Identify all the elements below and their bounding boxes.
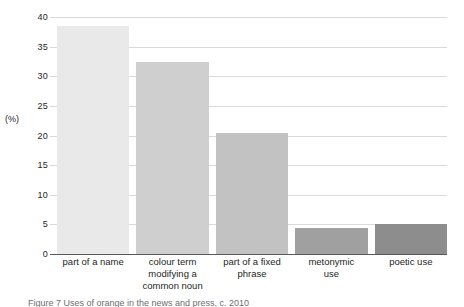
y-axis-tick-mark (50, 76, 57, 77)
y-axis-tick-label: 25 (38, 101, 57, 111)
y-axis-tick-mark (50, 224, 57, 225)
figure-caption: Figure 7 Uses of orange in the news and … (28, 299, 448, 307)
x-axis-category-label-line: part of a name (57, 256, 129, 268)
bar (136, 62, 208, 254)
x-axis-category-label-line: colour term (136, 256, 208, 268)
y-axis-tick-label: 15 (38, 160, 57, 170)
x-axis-category-label-line: common noun (136, 280, 208, 292)
y-axis-unit-label: (%) (5, 114, 19, 124)
bar-slot (57, 17, 129, 254)
y-axis-tick-mark (50, 195, 57, 196)
bar (57, 26, 129, 254)
x-axis-category-label-line: modifying a (136, 268, 208, 280)
bar-chart-figure: (%) 0510152025303540 part of a namecolou… (0, 0, 464, 307)
x-axis-category-label-line: phrase (216, 268, 288, 280)
y-axis-tick-mark (50, 254, 57, 255)
x-axis-category-label: metonymicuse (295, 256, 367, 280)
x-axis-category-label-line: use (295, 268, 367, 280)
y-axis-tick-label: 35 (38, 42, 57, 52)
plot-area: 0510152025303540 (57, 17, 447, 254)
y-axis-tick-mark (50, 136, 57, 137)
bar (216, 133, 288, 254)
bar-slot (136, 17, 208, 254)
y-axis-tick-label: 5 (43, 219, 57, 229)
x-axis-category-label: colour termmodifying acommon noun (136, 256, 208, 293)
bars-group (57, 17, 447, 254)
x-axis-category-labels: part of a namecolour termmodifying acomm… (57, 256, 447, 294)
y-axis-tick-label: 30 (38, 71, 57, 81)
x-axis-category-label-line: metonymic (295, 256, 367, 268)
bar-slot (375, 17, 447, 254)
y-axis-tick-mark (50, 106, 57, 107)
y-axis-tick-label: 40 (38, 12, 57, 22)
y-axis-tick-label: 0 (43, 249, 57, 259)
y-axis-tick-mark (50, 165, 57, 166)
x-axis-category-label-line: poetic use (375, 256, 447, 268)
x-axis-category-label-line: part of a fixed (216, 256, 288, 268)
y-axis-tick-mark (50, 17, 57, 18)
x-axis-category-label: part of a fixedphrase (216, 256, 288, 280)
x-axis-category-label: poetic use (375, 256, 447, 268)
bar (295, 228, 367, 254)
y-axis-tick-label: 10 (38, 190, 57, 200)
x-axis-category-label: part of a name (57, 256, 129, 268)
bar-slot (216, 17, 288, 254)
bar-slot (295, 17, 367, 254)
axis-baseline (57, 254, 447, 255)
y-axis-tick-mark (50, 47, 57, 48)
bar (375, 224, 447, 254)
y-axis-tick-label: 20 (38, 131, 57, 141)
